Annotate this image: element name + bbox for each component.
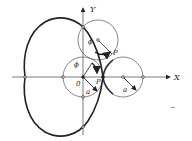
- a-label-right: a: [123, 86, 127, 94]
- y-axis-label: Y: [90, 5, 96, 14]
- phi-arc-center: [92, 63, 97, 73]
- a-label-center: a: [86, 88, 90, 96]
- origin-label: 0: [76, 80, 81, 88]
- cusp-lobe-bottom: [103, 77, 113, 94]
- cardioid-diagram: Y X 0 ϕ ϕ P P a a: [0, 0, 192, 141]
- p-label-center: P: [95, 78, 101, 86]
- cusp-lobe-top: [103, 60, 113, 77]
- phi-label-center: ϕ: [74, 61, 79, 69]
- phi-line-center: [83, 63, 92, 77]
- p-label-top: P: [112, 49, 118, 57]
- phi-label-top: ϕ: [88, 38, 93, 46]
- x-axis-label: X: [173, 73, 180, 82]
- stray-mark: [171, 107, 175, 108]
